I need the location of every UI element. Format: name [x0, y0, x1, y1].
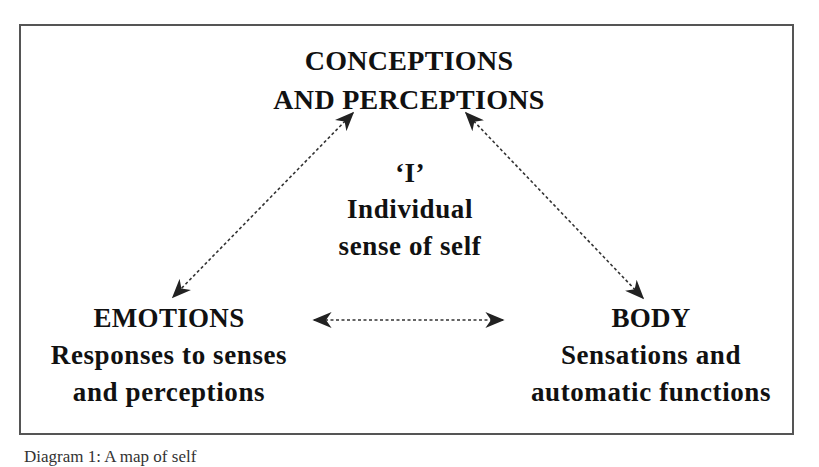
node-conceptions-and-perceptions: CONCEPTIONS AND PERCEPTIONS: [259, 41, 559, 119]
node-title: AND PERCEPTIONS: [259, 80, 559, 119]
node-subtitle: sense of self: [290, 228, 530, 265]
node-title: ‘I’: [290, 155, 530, 191]
figure-caption: Diagram 1: A map of self: [24, 447, 196, 467]
node-title: EMOTIONS: [24, 300, 314, 337]
node-subtitle: Responses to senses: [24, 337, 314, 374]
node-subtitle: Individual: [290, 191, 530, 228]
node-title: BODY: [506, 300, 796, 337]
node-emotions: EMOTIONS Responses to senses and percept…: [24, 300, 314, 411]
node-subtitle: Sensations and: [506, 337, 796, 374]
node-body: BODY Sensations and automatic functions: [506, 300, 796, 411]
node-individual-self: ‘I’ Individual sense of self: [290, 155, 530, 265]
node-subtitle: and perceptions: [24, 374, 314, 411]
node-subtitle: automatic functions: [506, 374, 796, 411]
node-title: CONCEPTIONS: [259, 41, 559, 80]
